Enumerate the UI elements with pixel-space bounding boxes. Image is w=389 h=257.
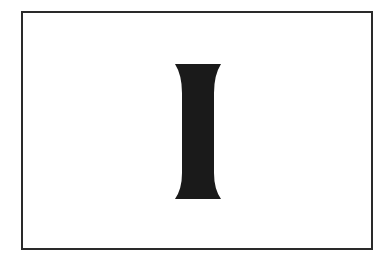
image-frame: I [21, 11, 373, 250]
bar-shape-icon [23, 13, 371, 248]
